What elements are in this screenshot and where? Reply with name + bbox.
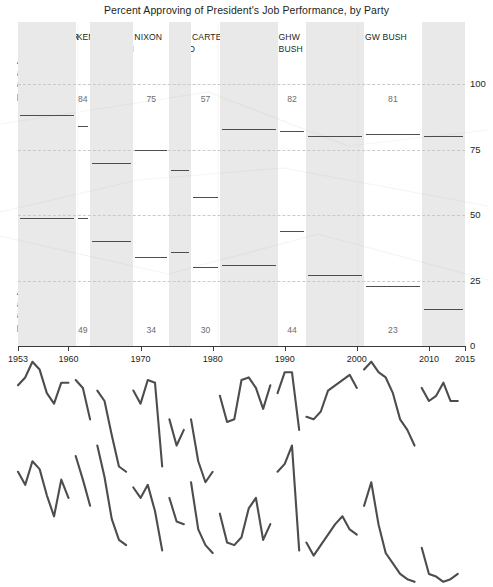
series-line xyxy=(422,383,458,401)
x-axis-label-1980: 1980 xyxy=(193,354,233,364)
series-line xyxy=(220,498,270,545)
series-line xyxy=(306,375,356,420)
average-bar-own xyxy=(135,150,167,151)
series-line xyxy=(364,482,414,582)
series-line xyxy=(422,548,458,582)
series-line xyxy=(306,516,356,555)
average-bar-other xyxy=(222,265,276,266)
series-line xyxy=(191,482,213,553)
average-bar-other xyxy=(171,252,189,253)
average-bar-own xyxy=(20,115,74,116)
x-tick-1980 xyxy=(213,346,214,351)
average-bar-other xyxy=(193,267,218,268)
y-axis-label-75: 75 xyxy=(470,144,481,155)
average-bar-own xyxy=(366,134,420,135)
average-bar-other xyxy=(135,257,167,258)
series-line xyxy=(97,446,126,546)
y-axis-label-25: 25 xyxy=(470,275,481,286)
average-bar-other xyxy=(92,241,131,242)
average-bar-other xyxy=(280,231,305,232)
average-bar-own xyxy=(280,131,305,132)
x-axis-label-2000: 2000 xyxy=(337,354,377,364)
x-axis xyxy=(18,346,465,347)
x-axis-label-1960: 1960 xyxy=(48,354,88,364)
series-line xyxy=(220,377,270,422)
series-line xyxy=(278,446,300,551)
president-label-bush: BUSH xyxy=(279,44,303,54)
x-axis-label-2015: 2015 xyxy=(445,354,485,364)
approval-lines xyxy=(18,346,465,587)
series-line xyxy=(169,498,183,524)
x-tick-1960 xyxy=(68,346,69,351)
series-line xyxy=(18,461,68,516)
president-label-ghw: GHW xyxy=(279,32,300,42)
series-line xyxy=(76,380,90,419)
average-bar-own xyxy=(193,197,218,198)
series-line xyxy=(97,391,126,472)
series-line xyxy=(364,362,414,446)
average-bar-own xyxy=(78,126,88,127)
average-bar-own xyxy=(222,129,276,130)
series-line xyxy=(169,419,183,445)
series-line xyxy=(18,362,68,404)
x-axis-label-1970: 1970 xyxy=(121,354,161,364)
x-axis-label-2010: 2010 xyxy=(409,354,449,364)
series-line xyxy=(76,456,90,506)
average-bar-other xyxy=(20,218,74,219)
series-line xyxy=(133,380,162,466)
chart-title: Percent Approving of President's Job Per… xyxy=(0,4,493,16)
president-label-nixon: NIXON xyxy=(134,32,162,42)
x-tick-2010 xyxy=(429,346,430,351)
x-axis-label-1953: 1953 xyxy=(0,354,38,364)
average-bar-other xyxy=(308,275,362,276)
average-bar-other xyxy=(78,218,88,219)
x-tick-1970 xyxy=(141,346,142,351)
x-tick-1990 xyxy=(285,346,286,351)
average-bar-other xyxy=(424,309,463,310)
series-line xyxy=(133,485,162,551)
series-line xyxy=(191,419,213,482)
x-axis-label-1990: 1990 xyxy=(265,354,305,364)
president-label-gw-bush: GW BUSH xyxy=(365,32,407,42)
x-tick-2015 xyxy=(465,346,466,351)
y-axis-label-0: 0 xyxy=(470,340,475,351)
average-bar-own xyxy=(424,136,463,137)
background-ghost-lines xyxy=(18,84,465,346)
series-line xyxy=(278,372,300,430)
average-bar-own xyxy=(308,136,362,137)
x-tick-2000 xyxy=(357,346,358,351)
average-bar-own xyxy=(92,163,131,164)
y-axis-label-50: 50 xyxy=(470,209,481,220)
x-tick-1953 xyxy=(18,346,19,351)
average-bar-other xyxy=(366,286,420,287)
average-bar-own xyxy=(171,170,189,171)
plot-area xyxy=(18,84,465,346)
y-axis-label-100: 100 xyxy=(470,78,486,89)
